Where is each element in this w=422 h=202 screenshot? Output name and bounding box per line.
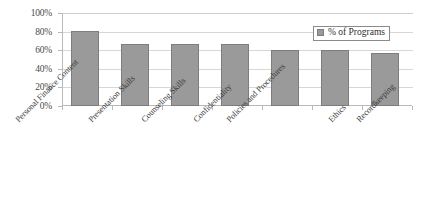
bar-ethics[interactable]	[321, 50, 349, 106]
chart-legend[interactable]: % of Programs	[313, 26, 390, 41]
y-axis-tick-label-20: 20%	[35, 82, 52, 92]
bar-slot-counseling-skills	[171, 13, 199, 106]
bar-confidentiality[interactable]	[221, 44, 249, 106]
x-axis-tick-5	[312, 106, 313, 110]
bar-slot-presentation-skills	[121, 13, 149, 106]
y-axis-tick-label-80: 80%	[35, 27, 52, 37]
x-axis-tick-7	[412, 106, 413, 110]
y-axis-tick-label-100: 100%	[31, 8, 52, 18]
legend-swatch-icon	[317, 29, 324, 36]
bar-slot-policies-and-procedures	[271, 13, 299, 106]
bar-slot-personal-finance-content	[71, 13, 99, 106]
bar-slot-confidentiality	[221, 13, 249, 106]
bar-personal-finance-content[interactable]	[71, 31, 99, 106]
bar-presentation-skills[interactable]	[121, 44, 149, 106]
legend-label-percent-of-programs: % of Programs	[328, 28, 385, 38]
y-axis-tick-label-40: 40%	[35, 64, 52, 74]
x-axis-tick-1	[112, 106, 113, 110]
bar-policies-and-procedures[interactable]	[271, 50, 299, 106]
y-axis: 100% 80% 60% 40% 20% 0%	[0, 0, 58, 202]
x-axis-tick-2	[162, 106, 163, 110]
bar-counseling-skills[interactable]	[171, 44, 199, 106]
y-axis-tick-label-60: 60%	[35, 45, 52, 55]
bar-recordkeeping[interactable]	[371, 53, 399, 106]
x-axis-tick-3	[212, 106, 213, 110]
y-axis-tick-label-0: 0%	[40, 101, 52, 111]
x-axis-tick-0	[62, 106, 63, 110]
x-axis-tick-6	[362, 106, 363, 110]
bar-chart: 100% 80% 60% 40% 20% 0%	[0, 0, 422, 202]
x-axis-tick-4	[262, 106, 263, 110]
